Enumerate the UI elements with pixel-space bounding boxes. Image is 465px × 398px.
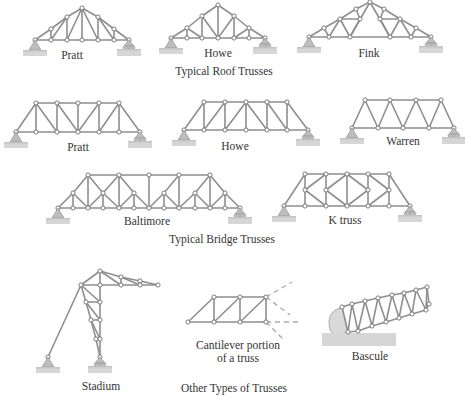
roller-wheel — [141, 138, 143, 140]
truss-member — [384, 9, 400, 19]
roller-wheel — [309, 136, 311, 138]
truss-member — [58, 193, 73, 208]
truss-member — [404, 293, 412, 314]
truss-joint — [303, 204, 307, 208]
roller-wheel — [312, 136, 314, 138]
truss-member — [171, 28, 187, 38]
roller-wheel — [453, 134, 455, 136]
truss-joint — [398, 17, 402, 21]
truss-joint — [414, 288, 418, 292]
truss-joint — [264, 295, 268, 299]
roller-wheel — [139, 138, 141, 140]
truss-joint — [208, 206, 212, 210]
roller-wheel — [435, 43, 437, 45]
roller-wheel — [409, 212, 411, 214]
truss-member — [16, 103, 36, 132]
roller-support-icon — [442, 128, 465, 144]
truss-joint — [401, 126, 405, 130]
truss-joint — [387, 204, 391, 208]
label-bridge-k: K truss — [329, 214, 362, 226]
pin-support-icon — [272, 206, 296, 222]
bascule-pier — [322, 333, 396, 346]
truss-joint — [238, 295, 242, 299]
truss-member — [378, 100, 390, 128]
pin-support-icon — [297, 37, 321, 53]
truss-member — [114, 29, 129, 40]
truss-joint — [117, 206, 121, 210]
ground-edge — [340, 138, 364, 140]
truss-joint — [409, 35, 413, 39]
truss-joint — [96, 15, 100, 19]
truss-joint — [101, 206, 105, 210]
truss-joint — [112, 27, 116, 31]
roller-wheel — [130, 46, 132, 48]
truss-member — [305, 174, 326, 190]
ground-edge — [23, 50, 47, 52]
roller-triangle — [303, 130, 313, 136]
truss-joint — [368, 0, 372, 4]
pin-triangle — [178, 130, 190, 140]
ground-edge — [88, 366, 112, 368]
truss-joint — [427, 302, 431, 306]
ground-edge — [46, 218, 70, 220]
truss-member — [429, 100, 441, 128]
roller-wheel — [432, 43, 434, 45]
truss-joint — [55, 130, 59, 134]
roller-wheel — [406, 212, 408, 214]
truss-joint — [223, 191, 227, 195]
truss-joint — [384, 320, 388, 324]
pin-support-icon — [23, 40, 47, 56]
roller-support-icon — [117, 40, 141, 56]
truss-joint — [71, 206, 75, 210]
roller-wheel — [427, 43, 429, 45]
truss-joint — [132, 206, 136, 210]
truss-roof-pratt — [33, 6, 131, 42]
truss-joint — [186, 320, 190, 324]
pin-support-icon — [4, 132, 28, 148]
truss-joint — [117, 101, 121, 105]
roller-support-icon — [296, 130, 320, 146]
truss-joint — [285, 100, 289, 104]
truss-member — [378, 298, 386, 322]
truss-member — [81, 271, 100, 285]
ground-edge — [297, 47, 321, 49]
truss-roof-howe — [169, 3, 267, 40]
truss-joint — [216, 3, 220, 7]
truss-joint — [264, 320, 268, 324]
truss-member — [48, 285, 81, 357]
truss-member — [326, 174, 347, 190]
truss-joint — [414, 98, 418, 102]
truss-joint — [84, 300, 88, 304]
truss-cantilever — [186, 282, 300, 339]
truss-member — [119, 193, 134, 208]
truss-member — [441, 100, 454, 128]
truss-joint — [376, 296, 380, 300]
roller-triangle — [135, 132, 145, 138]
truss-member — [284, 174, 305, 206]
label-bascule: Bascule — [352, 350, 388, 362]
truss-joint — [358, 17, 362, 21]
truss-member — [100, 271, 121, 285]
truss-joint — [65, 38, 69, 42]
roller-wheel — [411, 212, 413, 214]
roller-wheel — [101, 363, 103, 365]
ground-edge — [296, 139, 320, 141]
ground-edge — [4, 142, 28, 144]
roller-wheel — [269, 44, 271, 46]
truss-member — [179, 193, 195, 208]
roller-triangle — [449, 128, 459, 134]
truss-joint — [98, 300, 102, 304]
caption-bridge-trusses: Typical Bridge Trusses — [169, 233, 275, 246]
truss-joint — [101, 191, 105, 195]
truss-joint — [177, 173, 181, 177]
roller-wheel — [133, 46, 135, 48]
truss-joint — [346, 330, 350, 334]
truss-member — [164, 175, 179, 193]
roller-support-icon — [88, 357, 112, 373]
roller-wheel — [261, 44, 263, 46]
roller-wheel — [99, 363, 101, 365]
truss-joint — [223, 128, 227, 132]
truss-member — [347, 174, 368, 190]
ground-edge — [419, 46, 443, 48]
roller-triangle — [124, 40, 134, 46]
